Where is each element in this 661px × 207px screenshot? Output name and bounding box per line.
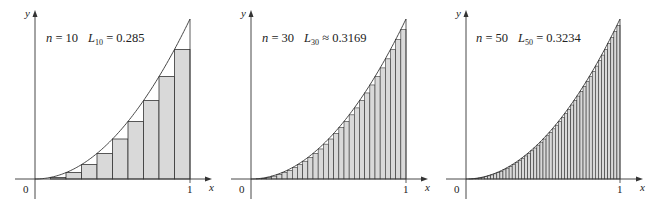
sum-annotation: n = 10L10 = 0.285 <box>46 31 144 47</box>
riemann-bar <box>303 161 308 179</box>
riemann-bar <box>605 49 608 179</box>
riemann-bar <box>391 49 396 179</box>
riemann-bar <box>614 32 617 179</box>
bars <box>469 25 620 179</box>
bars <box>256 29 406 179</box>
riemann-bar <box>549 132 552 179</box>
y-axis-label: y <box>24 7 30 19</box>
riemann-bar <box>583 87 586 179</box>
x-axis-label: x <box>208 181 214 193</box>
riemann-bar <box>592 71 595 179</box>
riemann-bar <box>506 168 509 179</box>
riemann-bar <box>491 175 494 179</box>
origin-label: 0 <box>23 183 29 195</box>
panel-n30: 01xyn = 30L30 ≈ 0.3169 <box>231 7 430 199</box>
riemann-bar <box>365 93 370 179</box>
riemann-bar <box>349 115 354 179</box>
riemann-bar <box>608 44 611 179</box>
riemann-bar <box>494 174 497 179</box>
riemann-bar <box>82 165 98 179</box>
riemann-bar <box>611 38 614 179</box>
riemann-bar <box>500 171 503 179</box>
origin-label: 0 <box>454 183 460 195</box>
x-tick-label: 1 <box>187 183 193 195</box>
riemann-bar <box>497 173 500 179</box>
riemann-bar <box>568 109 571 179</box>
riemann-bar <box>589 77 592 179</box>
riemann-bar <box>144 101 160 179</box>
riemann-bar <box>370 85 375 179</box>
riemann-bar <box>308 157 313 179</box>
riemann-bar <box>344 121 349 179</box>
riemann-bar <box>354 108 359 179</box>
riemann-bar <box>543 139 546 179</box>
origin-label: 0 <box>239 183 245 195</box>
riemann-bar <box>97 153 113 179</box>
riemann-bar <box>515 163 518 179</box>
y-axis-arrow-icon <box>33 10 38 17</box>
x-axis-label: x <box>424 181 430 193</box>
riemann-bar <box>282 173 287 179</box>
riemann-bar <box>552 129 555 179</box>
sum-annotation: n = 50L50 = 0.3234 <box>476 31 581 47</box>
riemann-bar <box>540 142 543 179</box>
riemann-bar <box>503 170 506 179</box>
riemann-bar <box>602 55 605 179</box>
riemann-bar <box>66 173 82 179</box>
riemann-bar <box>558 121 561 179</box>
y-axis-arrow-icon <box>464 10 469 17</box>
riemann-bar <box>571 105 574 179</box>
riemann-bar <box>531 151 534 179</box>
riemann-bar <box>537 145 540 179</box>
riemann-bar <box>277 175 282 179</box>
y-axis-label: y <box>240 7 246 19</box>
riemann-bar <box>512 165 515 179</box>
riemann-bar <box>175 49 191 179</box>
riemann-bar <box>113 139 129 179</box>
riemann-bar <box>396 40 401 179</box>
riemann-bar <box>586 82 589 179</box>
riemann-bar <box>159 77 175 179</box>
riemann-bar <box>598 61 601 179</box>
x-axis-label: x <box>639 181 645 193</box>
riemann-bar <box>380 68 385 179</box>
riemann-bar <box>518 161 521 180</box>
riemann-bar <box>580 91 583 179</box>
riemann-bar <box>521 158 524 179</box>
riemann-bar <box>339 128 344 179</box>
bars <box>51 49 191 179</box>
riemann-sum-figure: 01xyn = 10L10 = 0.285 01xyn = 30L30 ≈ 0.… <box>0 0 661 207</box>
riemann-bar <box>287 170 292 179</box>
riemann-bar <box>534 148 537 179</box>
riemann-bar <box>574 101 577 179</box>
riemann-bar <box>360 101 365 179</box>
riemann-bar <box>561 118 564 180</box>
riemann-bar <box>617 25 620 179</box>
x-tick-label: 1 <box>403 183 409 195</box>
riemann-bar <box>555 125 558 179</box>
riemann-bar <box>401 29 406 179</box>
riemann-bar <box>323 144 328 179</box>
riemann-bar <box>385 59 390 179</box>
riemann-bar <box>546 136 549 179</box>
riemann-bar <box>577 96 580 179</box>
y-axis-arrow-icon <box>249 10 254 17</box>
riemann-bar <box>298 165 303 179</box>
riemann-bar <box>318 149 323 179</box>
panel-n10: 01xyn = 10L10 = 0.285 <box>15 7 214 199</box>
riemann-bar <box>528 153 531 179</box>
riemann-bar <box>565 113 568 179</box>
riemann-bar <box>292 168 297 179</box>
riemann-bar <box>313 153 318 179</box>
sum-annotation: n = 30L30 ≈ 0.3169 <box>262 31 367 47</box>
x-tick-label: 1 <box>617 183 623 195</box>
panel-n50: 01xyn = 50L50 = 0.3234 <box>446 7 645 199</box>
riemann-bar <box>488 176 491 179</box>
riemann-bar <box>128 121 144 179</box>
riemann-bar <box>595 66 598 179</box>
riemann-bar <box>509 166 512 179</box>
riemann-bar <box>329 139 334 179</box>
riemann-bar <box>375 77 380 179</box>
riemann-bar <box>525 156 528 179</box>
riemann-bar <box>334 133 339 179</box>
